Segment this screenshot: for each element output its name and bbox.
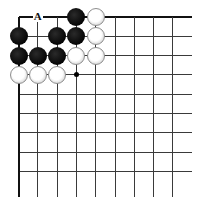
white-stone	[10, 66, 28, 84]
white-stone	[87, 8, 105, 26]
grid-line-horizontal	[19, 152, 193, 153]
white-stone	[87, 27, 105, 45]
white-stone	[48, 66, 66, 84]
grid-line-horizontal	[19, 94, 193, 95]
white-stone	[29, 66, 47, 84]
black-stone	[67, 8, 85, 26]
grid-line-vertical	[37, 17, 38, 197]
grid-line-horizontal	[19, 36, 193, 37]
grid-line-vertical	[115, 17, 116, 197]
black-stone	[48, 47, 66, 65]
black-stone	[10, 27, 28, 45]
grid-line-horizontal	[19, 171, 193, 172]
grid-line-vertical	[172, 17, 173, 197]
white-stone	[67, 47, 85, 65]
star-point	[74, 72, 79, 77]
go-board-diagram: A	[0, 0, 203, 212]
grid-line-vertical	[153, 17, 154, 197]
black-stone	[48, 27, 66, 45]
grid-line-horizontal	[19, 113, 193, 114]
grid-line-vertical	[134, 17, 135, 197]
black-stone	[10, 47, 28, 65]
white-stone	[87, 47, 105, 65]
black-stone	[67, 27, 85, 45]
grid-line-horizontal	[19, 132, 193, 133]
point-label: A	[33, 11, 43, 22]
board-top-edge	[19, 16, 193, 18]
black-stone	[29, 47, 47, 65]
